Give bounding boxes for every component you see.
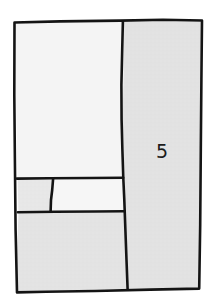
texture-region-bottom-left bbox=[17, 212, 127, 292]
divider-horizontal-lower bbox=[18, 211, 125, 212]
region-middle-center bbox=[51, 179, 123, 212]
partition-diagram: 5 bbox=[0, 0, 213, 305]
texture-region-middle-left-small bbox=[18, 179, 53, 212]
region-label-5: 5 bbox=[156, 140, 168, 162]
partition-figure-svg: 5 bbox=[0, 0, 213, 305]
region-upper-left bbox=[15, 22, 122, 179]
divider-horizontal-upper bbox=[17, 178, 123, 179]
